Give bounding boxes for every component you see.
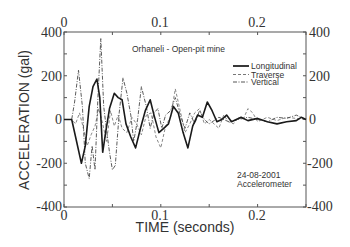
chart-title-annotation: Orhaneli - Open-pit mine bbox=[132, 44, 225, 54]
y-tick-label-left-0: 0 bbox=[55, 112, 62, 127]
x-axis-title: TIME (seconds) bbox=[136, 219, 235, 235]
y-tick-label-right-neg200: -200 bbox=[307, 156, 333, 171]
legend-label-vertical: Vertical bbox=[251, 77, 279, 87]
y-tick-label-right-0: 0 bbox=[309, 112, 316, 127]
y-axis-title: ACCELERATION (gal) bbox=[16, 50, 32, 190]
y-tick-label-left-neg200: -200 bbox=[36, 156, 62, 171]
y-tick-label-right-400: 400 bbox=[309, 25, 330, 40]
series-group bbox=[64, 39, 306, 179]
y-tick-label-right-neg400: -400 bbox=[307, 199, 333, 214]
y-tick-label-left-400: 400 bbox=[41, 25, 62, 40]
y-tick-label-left-neg400: -400 bbox=[36, 199, 62, 214]
x-tick-label-top-2: 0.2 bbox=[248, 15, 266, 30]
x-tick-label-top-1: 0.1 bbox=[151, 15, 169, 30]
y-tick-label-left-200: 200 bbox=[41, 69, 62, 84]
legend: Longitudinal Traverse Vertical bbox=[233, 61, 297, 87]
acceleration-chart: 0 0.1 0.2 0 0.1 0.2 400 200 0 -200 -400 … bbox=[0, 0, 350, 247]
instrument-annotation: Accelerometer bbox=[237, 179, 292, 189]
series-line-longitudinal bbox=[64, 79, 306, 163]
y-tick-label-right-200: 200 bbox=[309, 69, 330, 84]
x-tick-label-bottom-2: 0.2 bbox=[248, 208, 266, 223]
